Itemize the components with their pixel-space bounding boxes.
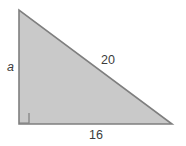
right-triangle-figure: a 20 16 [0,0,186,146]
triangle-graphic [0,0,186,146]
vertical-leg-label: a [7,61,14,74]
horizontal-leg-label: 16 [89,129,103,142]
hypotenuse-label: 20 [101,54,115,67]
